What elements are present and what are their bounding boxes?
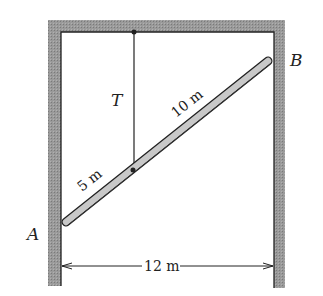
wall-frame [48,20,285,288]
label-point-a: A [25,224,39,244]
bar-between-walls-diagram: B A T 10 m 5 m 12 m [0,0,323,296]
cable-top-pin [132,30,137,35]
ceiling [48,20,285,32]
label-point-b: B [289,50,303,70]
rod-ab [66,61,270,225]
label-span: 12 m [144,258,180,274]
cable [132,30,137,171]
span-dimension: 12 m [62,258,273,274]
cable-attachment-pin [131,168,136,173]
label-tension: T [111,90,124,110]
right-wall [274,20,285,288]
left-wall [48,20,61,286]
